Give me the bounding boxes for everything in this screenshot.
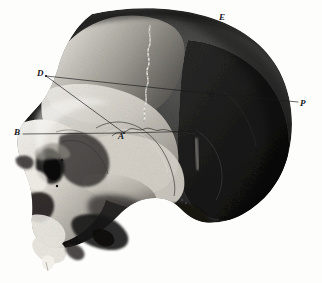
upper-incisor <box>42 255 54 270</box>
foramen <box>181 199 183 201</box>
external-auditory-meatus <box>144 198 166 219</box>
mandibular-fossa <box>131 202 151 221</box>
foramen <box>185 202 187 204</box>
ear-canal-opening <box>148 205 158 214</box>
label-A: A <box>118 132 124 141</box>
vertex-d <box>45 75 47 77</box>
skull-figure <box>0 0 322 283</box>
label-E: E <box>219 13 225 22</box>
skull-engraving-plate: E P C D B A <box>0 0 322 283</box>
skull-body <box>13 8 296 250</box>
label-B: B <box>14 128 20 137</box>
label-P: P <box>300 99 306 108</box>
bone-fragment <box>65 243 84 260</box>
foramen <box>19 180 21 182</box>
label-C: C <box>209 90 215 99</box>
label-D: D <box>37 69 44 78</box>
infraorbital-foramen <box>56 185 58 187</box>
foramen <box>61 159 63 161</box>
